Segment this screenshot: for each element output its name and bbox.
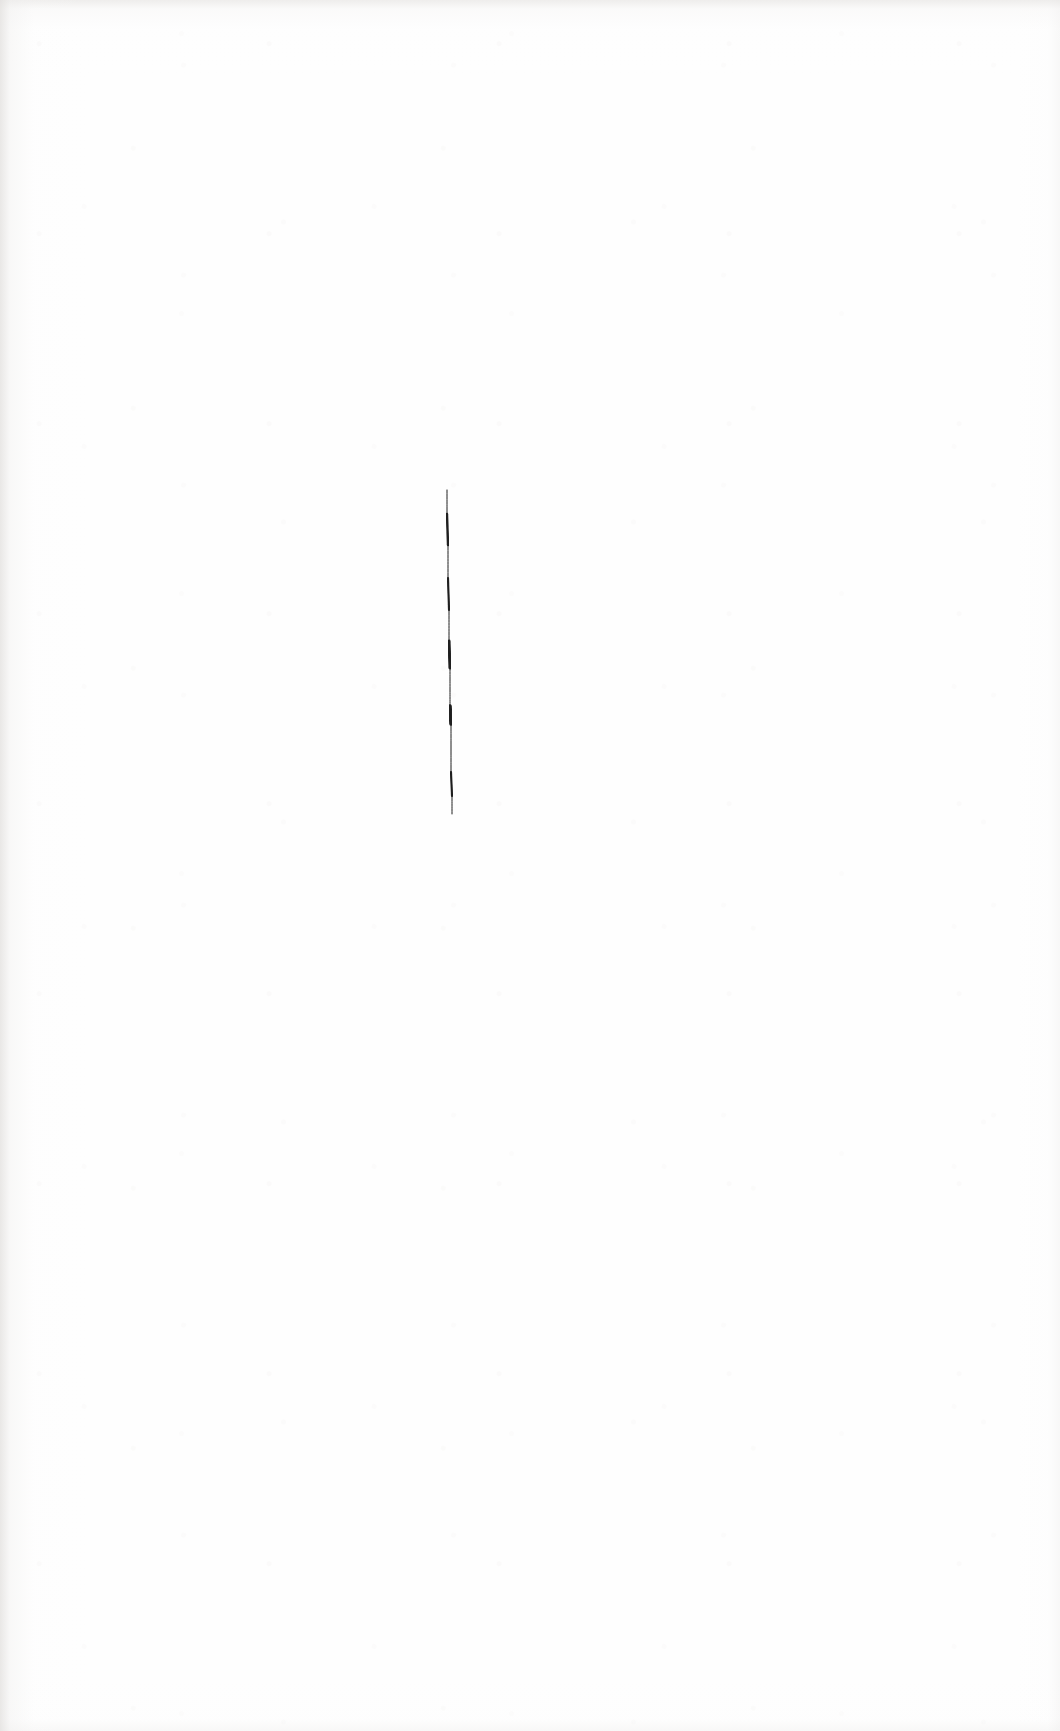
paper-surface	[0, 0, 1060, 1731]
scanned-page	[0, 0, 1060, 1731]
